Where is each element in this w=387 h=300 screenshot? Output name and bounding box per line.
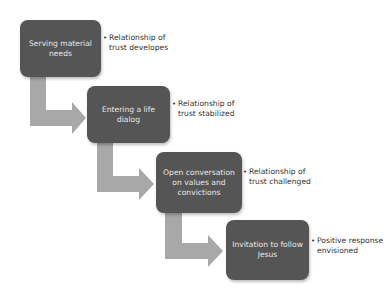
bent-arrow-icon [97,143,154,200]
step-label: Entering a life dialog [90,105,167,125]
step-note-2: • Relationship of trust stabilized [172,99,248,119]
note-text: Relationship of trust developes [109,33,168,52]
step-note-3: • Relationship of trust challenged [243,167,319,187]
bullet-icon: • [103,33,107,43]
step-label: Serving material needs [23,39,98,59]
step-label: Invitation to follow Jesus [229,240,306,260]
note-text: Relationship of trust challenged [249,167,311,186]
note-text: Relationship of trust stabilized [178,99,234,118]
step-box-2: Entering a life dialog [87,86,170,143]
bullet-icon: • [311,236,315,246]
step-note-1: • Relationship of trust developes [103,33,179,53]
bent-arrow-icon [165,213,223,267]
step-box-4: Invitation to follow Jesus [226,220,309,280]
bullet-icon: • [172,99,176,109]
step-box-3: Open conversation on values and convicti… [156,152,242,213]
bent-arrow-icon [30,77,86,134]
step-note-4: • Positive response envisioned [311,236,387,256]
note-text: Positive response envisioned [317,236,383,255]
bullet-icon: • [243,167,247,177]
step-label: Open conversation on values and convicti… [159,168,239,198]
step-box-1: Serving material needs [20,20,101,77]
